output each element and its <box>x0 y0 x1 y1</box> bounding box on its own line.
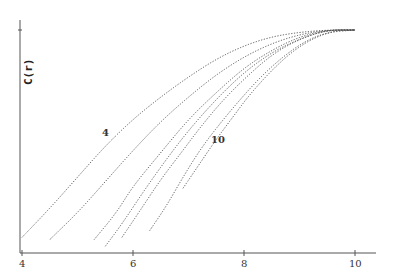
x-tick-label: 10 <box>349 258 362 269</box>
x-tick-label: 4 <box>19 258 25 269</box>
x-tick-label: 8 <box>241 258 247 269</box>
series-curve-4 <box>22 30 355 237</box>
series-curve-10 <box>183 30 355 188</box>
curve-label-last: 10 <box>211 134 225 145</box>
series-curve-8 <box>122 30 355 237</box>
x-tick-label: 6 <box>130 258 136 269</box>
series-curve-5 <box>50 30 355 240</box>
y-axis-label: C(r) <box>22 59 35 86</box>
series-curve-9 <box>150 30 355 231</box>
series-curve-7 <box>105 30 355 246</box>
data-series <box>22 30 355 246</box>
chart-plot <box>0 0 394 277</box>
curve-label-first: 4 <box>102 127 109 138</box>
